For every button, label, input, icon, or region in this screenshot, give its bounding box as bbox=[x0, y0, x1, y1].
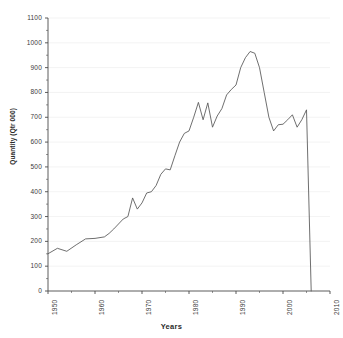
x-tick-label: 1970 bbox=[145, 300, 152, 315]
y-tick-label: 300 bbox=[16, 213, 42, 220]
gridlines bbox=[48, 18, 330, 266]
x-tick-label: 2010 bbox=[333, 300, 340, 315]
y-tick-label: 800 bbox=[16, 88, 42, 95]
chart-container: 010020030040050060070080090010001100 195… bbox=[0, 0, 343, 338]
y-tick-label: 900 bbox=[16, 64, 42, 71]
x-tick-label: 1950 bbox=[51, 300, 58, 315]
axis-ticks bbox=[45, 18, 330, 294]
y-tick-label: 0 bbox=[16, 287, 42, 294]
y-axis-title: Quantity (Qtr 000) bbox=[9, 108, 16, 165]
y-tick-label: 500 bbox=[16, 163, 42, 170]
x-tick-label: 2000 bbox=[286, 300, 293, 315]
y-tick-label: 600 bbox=[16, 138, 42, 145]
x-axis-title: Years bbox=[0, 322, 343, 331]
y-tick-label: 1000 bbox=[16, 39, 42, 46]
x-tick-label: 1990 bbox=[239, 300, 246, 315]
y-tick-label: 400 bbox=[16, 188, 42, 195]
chart-plot-svg bbox=[0, 0, 343, 338]
y-tick-label: 200 bbox=[16, 237, 42, 244]
data-series-line bbox=[48, 52, 311, 292]
x-tick-label: 1960 bbox=[98, 300, 105, 315]
y-tick-label: 700 bbox=[16, 113, 42, 120]
x-tick-label: 1980 bbox=[192, 300, 199, 315]
y-tick-label: 1100 bbox=[16, 14, 42, 21]
y-tick-label: 100 bbox=[16, 262, 42, 269]
